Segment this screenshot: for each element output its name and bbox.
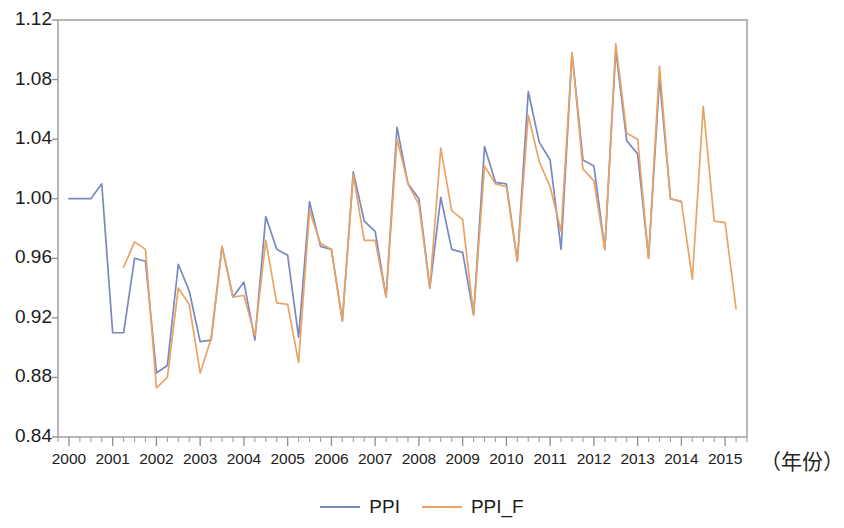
- legend-line-swatch: [422, 506, 462, 508]
- legend-line-swatch: [320, 506, 360, 508]
- y-tick-label: 1.00: [0, 187, 52, 209]
- x-tick-label: 2006: [309, 450, 353, 468]
- x-tick-label: 2005: [266, 450, 310, 468]
- x-tick-label: 2013: [616, 450, 660, 468]
- legend-item: PPI_F: [422, 497, 524, 516]
- x-tick-label: 2010: [484, 450, 528, 468]
- x-tick-label: 2001: [91, 450, 135, 468]
- x-tick-label: 2012: [572, 450, 616, 468]
- y-tick-label: 0.92: [0, 306, 52, 328]
- y-tick-label: 1.04: [0, 127, 52, 149]
- x-tick-label: 2000: [47, 450, 91, 468]
- x-tick-label: 2002: [134, 450, 178, 468]
- y-tick-label: 1.08: [0, 68, 52, 90]
- x-tick-label: 2004: [222, 450, 266, 468]
- y-tick-label: 0.96: [0, 246, 52, 268]
- x-axis-title: （年份）: [760, 445, 844, 475]
- y-tick-label: 0.84: [0, 425, 52, 447]
- x-tick-label: 2008: [397, 450, 441, 468]
- chart-legend: PPIPPI_F: [0, 497, 844, 516]
- chart-plot-area: [0, 0, 844, 528]
- legend-item: PPI: [320, 497, 400, 516]
- y-tick-label: 0.88: [0, 365, 52, 387]
- x-tick-label: 2003: [178, 450, 222, 468]
- x-tick-label: 2015: [703, 450, 747, 468]
- y-tick-label: 1.12: [0, 8, 52, 30]
- x-tick-label: 2009: [441, 450, 485, 468]
- legend-label: PPI: [369, 497, 400, 516]
- line-chart: 0.840.880.920.961.001.041.081.12 2000200…: [0, 0, 844, 528]
- x-tick-label: 2011: [528, 450, 572, 468]
- x-tick-label: 2014: [659, 450, 703, 468]
- legend-label: PPI_F: [471, 497, 524, 516]
- x-tick-label: 2007: [353, 450, 397, 468]
